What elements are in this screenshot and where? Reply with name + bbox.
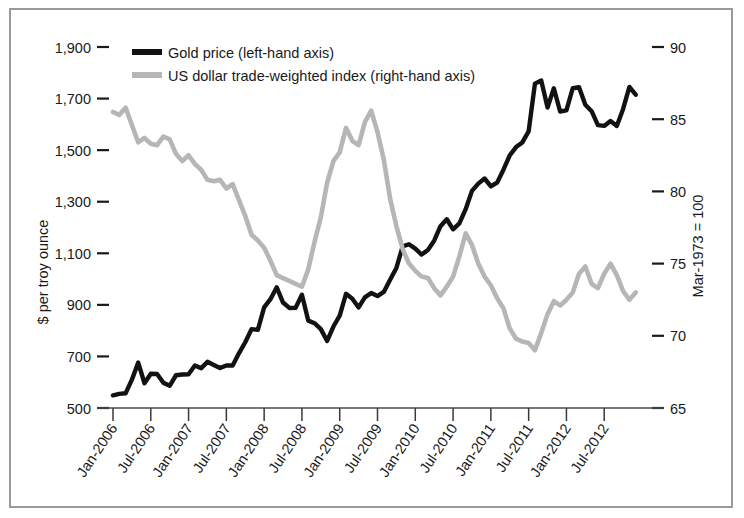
y-left-tick-label: 1,500: [55, 143, 91, 159]
x-axis: Jan-2006Jul-2006Jan-2007Jul-2007Jan-2008…: [73, 408, 664, 480]
y-axis-right-ticks: 657075808590: [652, 40, 686, 417]
x-tick-label: Jul-2012: [567, 421, 611, 476]
chart-figure: 5007009001,1001,3001,5001,7001,900 65707…: [0, 0, 744, 518]
legend-label: US dollar trade-weighted index (right-ha…: [168, 68, 475, 84]
y-left-tick-label: 500: [67, 401, 91, 417]
data-series-group: [113, 81, 636, 396]
y-right-tick-label: 90: [670, 40, 686, 56]
legend-label: Gold price (left-hand axis): [168, 45, 334, 61]
y-left-tick-label: 1,100: [55, 246, 91, 262]
y-right-tick-label: 75: [670, 256, 686, 272]
y-axis-left-title: $ per troy ounce: [35, 220, 51, 325]
series-line-usd-index: [113, 108, 636, 351]
y-axis-right-title: Mar-1973 = 100: [690, 195, 706, 298]
y-left-tick-label: 1,900: [55, 40, 91, 56]
y-axis-left-ticks: 5007009001,1001,3001,5001,7001,900: [55, 40, 109, 417]
y-left-tick-label: 1,300: [55, 194, 91, 210]
axis-titles: $ per troy ounceMar-1973 = 100: [35, 195, 706, 325]
y-left-tick-label: 1,700: [55, 91, 91, 107]
y-right-tick-label: 70: [670, 328, 686, 344]
y-right-tick-label: 65: [670, 401, 686, 417]
y-right-tick-label: 85: [670, 112, 686, 128]
chart-plot: 5007009001,1001,3001,5001,7001,900 65707…: [0, 0, 744, 518]
y-right-tick-label: 80: [670, 184, 686, 200]
y-left-tick-label: 700: [67, 349, 91, 365]
x-tick-label: Jan-2006: [73, 421, 120, 480]
chart-legend: Gold price (left-hand axis)US dollar tra…: [132, 45, 475, 84]
y-left-tick-label: 900: [67, 297, 91, 313]
